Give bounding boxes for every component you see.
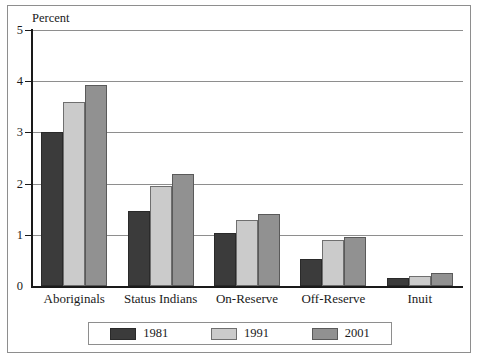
legend-label: 2001: [345, 327, 370, 340]
bar: [150, 186, 172, 286]
bar: [41, 132, 63, 286]
y-axis-tick-mark: [25, 81, 32, 82]
bar-group: [41, 30, 107, 286]
legend-label: 1981: [143, 327, 168, 340]
bar: [63, 102, 85, 286]
bar: [172, 174, 194, 286]
x-axis-category-label: Status Indians: [117, 291, 203, 307]
y-axis-tick-label: 5: [3, 24, 23, 37]
y-axis-tick-mark: [25, 30, 32, 31]
bar: [431, 273, 453, 286]
y-axis-tick-label: 3: [3, 126, 23, 139]
x-axis-line: [31, 286, 463, 288]
legend-swatch: [312, 328, 338, 340]
bar: [387, 278, 409, 286]
bar: [409, 276, 431, 286]
y-axis-line: [31, 29, 33, 287]
legend-item[interactable]: 1991: [211, 327, 269, 340]
bar-group: [128, 30, 194, 286]
x-axis-category-labels: AboriginalsStatus IndiansOn-ReserveOff-R…: [31, 291, 463, 313]
y-axis-title: Percent: [32, 12, 69, 25]
y-axis-tick-mark: [25, 132, 32, 133]
y-axis-tick-label: 0: [3, 280, 23, 293]
bar-group: [300, 30, 366, 286]
bar: [128, 211, 150, 286]
bar: [85, 85, 107, 286]
bar: [300, 259, 322, 286]
y-axis-tick-mark: [25, 184, 32, 185]
bar: [344, 237, 366, 286]
y-axis-tick-mark: [25, 235, 32, 236]
y-axis-tick-label: 2: [3, 178, 23, 191]
x-axis-category-label: Inuit: [377, 291, 463, 307]
y-axis-tick-label: 4: [3, 75, 23, 88]
bar: [214, 233, 236, 286]
legend-item[interactable]: 1981: [110, 327, 168, 340]
y-axis-tick-label: 1: [3, 229, 23, 242]
legend-swatch: [110, 328, 136, 340]
bar-group: [387, 30, 453, 286]
bar: [322, 240, 344, 286]
legend-swatch: [211, 328, 237, 340]
bar: [236, 220, 258, 286]
x-axis-category-label: On-Reserve: [204, 291, 290, 307]
legend-label: 1991: [244, 327, 269, 340]
bar-group: [214, 30, 280, 286]
y-axis-tick-labels: 012345: [0, 0, 23, 358]
chart-legend: 198119912001: [88, 322, 392, 345]
bar: [258, 214, 280, 286]
x-axis-category-label: Aboriginals: [31, 291, 117, 307]
bar-chart-figure: Percent 012345 AboriginalsStatus Indians…: [0, 0, 479, 358]
plot-area: [31, 30, 463, 286]
x-axis-category-label: Off-Reserve: [290, 291, 376, 307]
legend-item[interactable]: 2001: [312, 327, 370, 340]
